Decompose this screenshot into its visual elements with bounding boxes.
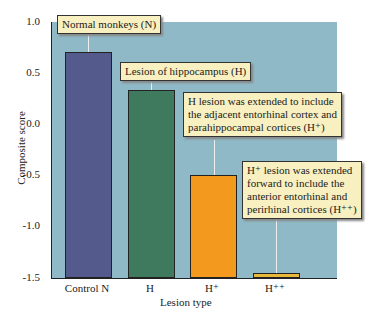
leader-n [88, 32, 89, 52]
ytick: 0.5 [0, 66, 40, 78]
bar-h [128, 90, 175, 278]
xtick-h-plus: H⁺ [177, 282, 247, 295]
leader-h [151, 80, 152, 90]
ytick: 0.0 [0, 117, 40, 129]
xtick-control: Control N [52, 282, 122, 294]
plot-area [51, 22, 337, 279]
ytick: -1.5 [0, 271, 40, 283]
callout-normal: Normal monkeys (N) [57, 15, 161, 34]
callout-h-plus-plus: H⁺ lesion was extendedforward to include… [242, 161, 362, 219]
bar-control [65, 52, 112, 278]
callout-hippocampus: Lesion of hippocampus (H) [120, 62, 251, 81]
bar-h-plus-plus [253, 273, 300, 278]
bar-h-plus [190, 175, 237, 278]
callout-h-plus: H lesion was extended to includethe adja… [183, 92, 342, 137]
ytick: 1.0 [0, 15, 40, 27]
ytick: -0.5 [0, 168, 40, 180]
xtick-h: H [115, 282, 185, 294]
xtick-h-plus-plus: H⁺⁺ [240, 282, 310, 295]
ytick: -1.0 [0, 219, 40, 231]
x-axis-title: Lesion type [160, 296, 212, 308]
leader-hp [214, 140, 215, 175]
